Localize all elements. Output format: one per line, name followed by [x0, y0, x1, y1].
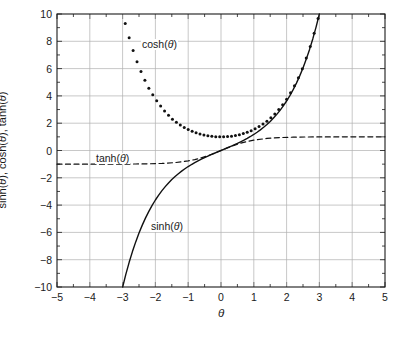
y-tick-label: 0 [22, 145, 52, 156]
x-tick-label: −5 [51, 292, 63, 303]
y-tick-label: 4 [22, 91, 52, 102]
cosh-curve-annotation: cosh(θ) [141, 39, 178, 50]
sinh-curve-annotation: sinh(θ) [150, 221, 184, 232]
x-tick-label: −1 [182, 292, 194, 303]
x-tick-label: 2 [284, 292, 290, 303]
y-tick-label: 2 [22, 118, 52, 129]
x-tick-label: −2 [149, 292, 161, 303]
x-tick-label: 0 [218, 292, 224, 303]
x-tick-label: −3 [117, 292, 129, 303]
plot-canvas [0, 0, 410, 337]
x-axis-title: θ [218, 308, 224, 320]
x-tick-label: −4 [84, 292, 96, 303]
y-tick-label: −6 [22, 227, 52, 238]
y-axis-title: sinh(θ), cosh(θ), tanh(θ) [0, 40, 8, 260]
x-tick-label: 5 [382, 292, 388, 303]
cosh-markers [124, 17, 320, 138]
y-tick-label: 10 [22, 9, 52, 20]
x-tick-label: 1 [251, 292, 257, 303]
y-tick-label: −4 [22, 200, 52, 211]
y-tick-label: 8 [22, 36, 52, 47]
y-tick-label: −8 [22, 254, 52, 265]
hyperbolic-functions-chart: −10−8−6−4−20246810 −5−4−3−2−1012345 sinh… [0, 0, 410, 337]
x-tick-label: 3 [316, 292, 322, 303]
y-tick-label: −2 [22, 173, 52, 184]
y-tick-label: 6 [22, 63, 52, 74]
tanh-curve-annotation: tanh(θ) [95, 153, 130, 164]
y-tick-label: −10 [22, 282, 52, 293]
x-tick-label: 4 [349, 292, 355, 303]
